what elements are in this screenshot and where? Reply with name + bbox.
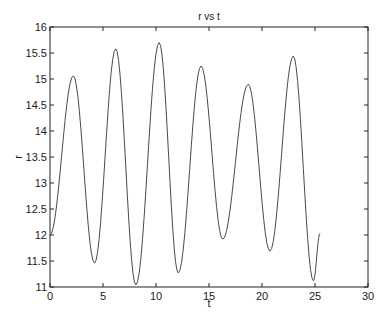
y-tick-label: 16 [35,21,47,33]
x-tick-label: 10 [150,290,162,302]
y-tick-label: 12 [35,229,47,241]
chart-title: r vs t [198,11,220,22]
x-tick-label: 30 [362,290,374,302]
x-tick-label: 0 [47,290,53,302]
y-tick-label: 13 [35,177,47,189]
y-tick-label: 14 [35,125,47,137]
x-axis-label: t [207,297,210,309]
y-axis-label: r [12,155,24,159]
y-tick-label: 12.5 [26,203,47,215]
x-tick-label: 5 [100,290,106,302]
x-tick-label: 25 [309,290,321,302]
y-tick-label: 11.5 [26,255,47,267]
line-chart: r vs t 051015202530 1111.51212.51313.514… [0,0,386,326]
y-tick-label: 14.5 [26,99,47,111]
y-tick-label: 15.5 [26,47,47,59]
x-tick-label: 20 [256,290,268,302]
y-tick-label: 15 [35,73,47,85]
y-tick-label: 11 [36,281,47,293]
y-tick-label: 13.5 [26,151,47,163]
